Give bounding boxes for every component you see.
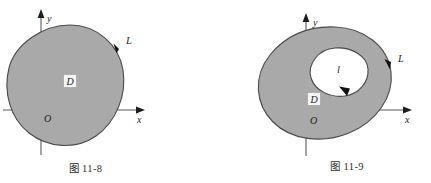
y-axis-label: y xyxy=(312,17,318,28)
figure-11-8-canvas: L D O y x xyxy=(0,0,215,183)
origin-label-O: O xyxy=(310,115,317,126)
figure-11-9: L l D O y x 图 11-9 xyxy=(215,0,431,183)
x-axis-label: x xyxy=(136,114,142,125)
figure-11-9-caption: 图 11-9 xyxy=(239,158,431,173)
y-axis-label: y xyxy=(46,13,52,24)
region-label-D-group: D xyxy=(308,93,321,106)
region-d-shape xyxy=(258,27,391,139)
region-label-D: D xyxy=(66,76,75,87)
x-axis-label: x xyxy=(404,114,410,125)
outer-boundary-label-L: L xyxy=(397,53,404,64)
region-label-D: D xyxy=(310,94,319,105)
figure-plate: L D O y x 图 11-8 xyxy=(0,0,431,183)
figure-11-8: L D O y x 图 11-8 xyxy=(0,0,215,183)
boundary-label-L: L xyxy=(125,35,132,46)
figure-11-9-canvas: L l D O y x xyxy=(215,0,431,183)
inner-boundary-label-l: l xyxy=(337,64,340,75)
origin-label-O: O xyxy=(44,113,51,124)
inner-boundary-orientation-arrow xyxy=(339,87,350,97)
figure-11-8-caption: 图 11-8 xyxy=(0,160,193,175)
region-label-D-group: D xyxy=(64,75,77,88)
